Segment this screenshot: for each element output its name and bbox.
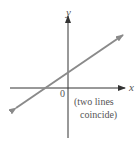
annotation-line-1: (two lines (74, 96, 114, 108)
coordinate-plane: x y 0 (two lines coincide) (0, 0, 138, 143)
y-axis-label: y (65, 6, 71, 18)
origin-label: 0 (60, 88, 65, 99)
annotation-line-2: coincide) (80, 109, 117, 121)
x-axis-label: x (128, 81, 134, 93)
